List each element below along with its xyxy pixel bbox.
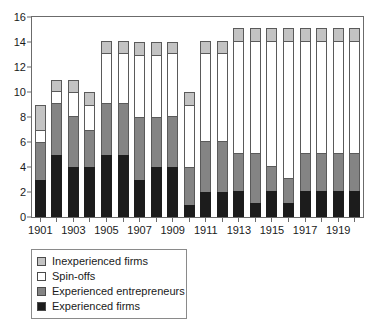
bar-segment [184, 105, 195, 168]
bar-segment [250, 28, 261, 41]
bar-segment [283, 178, 294, 203]
x-axis-tick-mark [89, 218, 90, 222]
bar-stack[interactable] [118, 41, 129, 217]
y-axis-tick-label: 12 [14, 62, 26, 73]
x-axis-tick-mark [172, 218, 173, 222]
x-axis-tick-label: 1909 [160, 224, 184, 236]
bar-stack[interactable] [266, 28, 277, 217]
bar-stack[interactable] [283, 28, 294, 217]
bar-segment [134, 55, 145, 118]
bar-segment [266, 41, 277, 166]
y-axis-tick-mark [27, 117, 31, 118]
bar-stack[interactable] [316, 28, 327, 217]
bar-segment [217, 53, 228, 141]
legend-item-label: Spin-offs [52, 270, 95, 283]
bar-stack[interactable] [184, 92, 195, 217]
bar-stack[interactable] [84, 92, 95, 217]
y-axis-tick-label: 16 [14, 12, 26, 23]
bar-slot [151, 17, 162, 217]
bar-segment [233, 153, 244, 191]
bar-segment [300, 191, 311, 217]
bar-stack[interactable] [68, 80, 79, 218]
legend-swatch-icon [37, 272, 46, 281]
bar-slot [266, 17, 277, 217]
bar-slot [283, 17, 294, 217]
bar-stack[interactable] [333, 28, 344, 217]
bar-segment [250, 203, 261, 217]
bar-segment [151, 117, 162, 167]
x-axis-tick-mark [338, 218, 339, 222]
bar-segment [84, 167, 95, 217]
bar-segment [316, 153, 327, 191]
bar-stack[interactable] [217, 41, 228, 217]
bar-stack[interactable] [300, 28, 311, 217]
bar-segment [167, 53, 178, 116]
bar-segment [167, 167, 178, 217]
bar-stack[interactable] [151, 42, 162, 217]
bar-segment [151, 42, 162, 55]
x-axis-tick-label: 1917 [293, 224, 317, 236]
bars-area [32, 17, 363, 217]
legend-swatch-icon [37, 302, 46, 311]
y-axis-tick-label: 10 [14, 87, 26, 98]
bar-segment [333, 28, 344, 41]
bar-segment [101, 155, 112, 218]
x-axis-tick-label: 1915 [260, 224, 284, 236]
bar-segment [217, 192, 228, 217]
bar-slot [300, 17, 311, 217]
bar-segment [101, 41, 112, 54]
bar-segment [200, 53, 211, 141]
legend-item-label: Inexperienced firms [52, 255, 148, 268]
legend-swatch-icon [37, 287, 46, 296]
bar-segment [316, 191, 327, 217]
bar-segment [51, 155, 62, 218]
bar-segment [217, 41, 228, 54]
bar-slot [200, 17, 211, 217]
bar-stack[interactable] [349, 28, 360, 217]
bar-slot [217, 17, 228, 217]
x-axis-tick-label: 1913 [227, 224, 251, 236]
legend-item[interactable]: Experienced entrepreneurs [37, 284, 181, 299]
bar-segment [84, 105, 95, 130]
bar-slot [184, 17, 195, 217]
bar-segment [349, 41, 360, 154]
y-axis-tick-label: 4 [20, 162, 26, 173]
bar-stack[interactable] [51, 80, 62, 218]
bar-segment [68, 80, 79, 93]
bar-stack[interactable] [134, 42, 145, 217]
legend-item-label: Experienced entrepreneurs [52, 285, 185, 298]
bar-stack[interactable] [101, 41, 112, 217]
x-axis-labels: 1901190319051907190919111913191519171919 [0, 224, 377, 240]
legend-item[interactable]: Spin-offs [37, 269, 181, 284]
y-axis-tick-mark [27, 67, 31, 68]
bar-segment [35, 142, 46, 180]
x-axis-tick-mark [238, 218, 239, 222]
legend-item[interactable]: Inexperienced firms [37, 254, 181, 269]
bar-segment [233, 28, 244, 41]
bar-segment [35, 180, 46, 218]
x-axis-tick-label: 1911 [194, 224, 218, 236]
bar-slot [68, 17, 79, 217]
bar-segment [167, 116, 178, 167]
bar-stack[interactable] [167, 42, 178, 217]
x-axis-tick-mark [222, 218, 223, 222]
x-axis-tick-mark [73, 218, 74, 222]
bar-segment [349, 28, 360, 41]
bar-slot [167, 17, 178, 217]
y-axis: 0246810121416 [0, 0, 31, 219]
legend-item[interactable]: Experienced firms [37, 299, 181, 314]
bar-slot [316, 17, 327, 217]
bar-stack[interactable] [250, 28, 261, 217]
x-axis-tick-label: 1901 [28, 224, 52, 236]
bar-segment [51, 103, 62, 154]
bar-stack[interactable] [200, 41, 211, 217]
bar-stack[interactable] [35, 105, 46, 218]
bar-segment [200, 141, 211, 192]
bar-segment [200, 41, 211, 54]
y-axis-tick-mark [27, 217, 31, 218]
bar-segment [134, 117, 145, 180]
bar-slot [333, 17, 344, 217]
bar-segment [35, 105, 46, 130]
bar-stack[interactable] [233, 28, 244, 217]
stacked-bar-chart: 0246810121416 19011903190519071909191119… [0, 0, 377, 331]
